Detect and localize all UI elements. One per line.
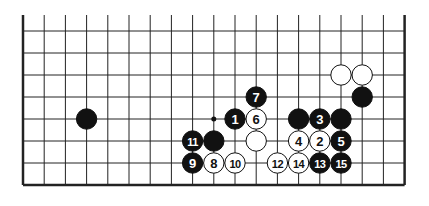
white-stone-icon: [352, 65, 372, 85]
move-number-label: 13: [314, 158, 326, 170]
move-number-label: 3: [316, 112, 323, 127]
black-stone: [288, 109, 308, 129]
white-stone-move-14: 14: [288, 153, 308, 173]
black-stone-icon: [204, 131, 224, 151]
move-number-label: 5: [337, 134, 344, 149]
black-stone-move-11: 11: [182, 131, 202, 151]
white-stone: [246, 131, 266, 151]
black-stone-move-7: 7: [246, 87, 266, 107]
black-stone-move-9: 9: [182, 153, 202, 173]
move-number-label: 15: [335, 158, 347, 170]
move-number-label: 10: [229, 158, 241, 170]
white-stone-move-2: 2: [310, 131, 330, 151]
black-stone-move-15: 15: [331, 153, 351, 173]
black-stone-icon: [352, 87, 372, 107]
black-stone-move-13: 13: [310, 153, 330, 173]
white-stone-move-12: 12: [267, 153, 287, 173]
move-number-label: 2: [316, 134, 323, 149]
move-number-label: 8: [210, 156, 217, 171]
black-stone-icon: [331, 109, 351, 129]
move-number-label: 1: [231, 112, 238, 127]
move-number-label: 12: [272, 158, 284, 170]
black-stone-move-5: 5: [331, 131, 351, 151]
move-number-label: 14: [293, 158, 306, 170]
black-stone: [204, 131, 224, 151]
star-point-marker: [211, 117, 216, 122]
black-stone: [352, 87, 372, 107]
white-stone: [352, 65, 372, 85]
go-board: 716311425981012141315: [0, 0, 429, 206]
white-stone-move-4: 4: [288, 131, 308, 151]
move-number-label: 7: [253, 90, 260, 105]
black-stone: [331, 109, 351, 129]
white-stone: [331, 65, 351, 85]
move-number-label: 6: [253, 112, 260, 127]
move-number-label: 11: [187, 136, 198, 148]
move-number-label: 9: [189, 156, 196, 171]
black-stone-move-3: 3: [310, 109, 330, 129]
white-stone-move-10: 10: [225, 153, 245, 173]
white-stone-move-8: 8: [204, 153, 224, 173]
white-stone-icon: [331, 65, 351, 85]
board-markers: [211, 117, 216, 122]
black-stone-icon: [76, 109, 96, 129]
black-stone-move-1: 1: [225, 109, 245, 129]
white-stone-icon: [246, 131, 266, 151]
black-stone: [76, 109, 96, 129]
white-stone-move-6: 6: [246, 109, 266, 129]
move-number-label: 4: [295, 134, 303, 149]
black-stone-icon: [288, 109, 308, 129]
